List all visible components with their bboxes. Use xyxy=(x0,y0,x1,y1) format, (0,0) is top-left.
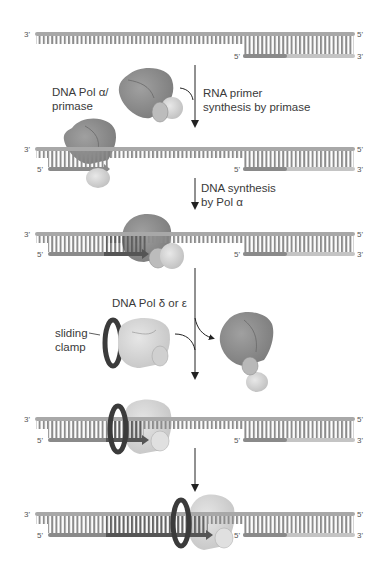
end-label-3prime: 3' xyxy=(24,30,30,39)
end-label-3prime: 3' xyxy=(357,250,363,259)
end-label-5prime: 5' xyxy=(234,436,240,445)
step-1-label: RNA primer xyxy=(203,87,263,99)
template-strand xyxy=(35,32,355,36)
previous-rna-primer xyxy=(243,54,287,58)
label-sliding-clamp: clamp xyxy=(55,341,86,353)
end-label-3prime: 3' xyxy=(24,230,30,239)
label-pol-delta: DNA Pol δ or ε xyxy=(112,297,187,309)
step-2-label: by Pol α xyxy=(201,196,243,208)
panel-2-dna: 3' 5' 5' 5' 3' xyxy=(24,118,363,188)
end-label-5prime: 5' xyxy=(234,165,240,174)
pol-delta-free xyxy=(118,318,170,368)
end-label-3prime: 3' xyxy=(357,436,363,445)
end-label-5prime: 5' xyxy=(234,531,240,540)
end-label-3prime: 3' xyxy=(357,52,363,61)
end-label-5prime: 5' xyxy=(357,30,363,39)
end-label-5prime: 5' xyxy=(37,531,43,540)
base-pairs-right xyxy=(244,44,354,54)
end-label-3prime: 3' xyxy=(24,415,30,424)
pol-alpha-released xyxy=(220,312,273,392)
end-label-5prime: 5' xyxy=(37,436,43,445)
base-pairs xyxy=(36,36,354,44)
end-label-5prime: 5' xyxy=(357,415,363,424)
panel-4-dna: 3' 5' 5' 5' 3' xyxy=(24,400,363,454)
end-label-5prime: 5' xyxy=(234,250,240,259)
replication-diagram: 3' 5' 5' 3' DNA Pol α/ primase RNA prime… xyxy=(0,0,385,575)
end-label-5prime: 5' xyxy=(357,510,363,519)
binding-arrow xyxy=(180,88,193,100)
label-pol-alpha: DNA Pol α/ xyxy=(52,86,109,98)
end-label-5prime: 5' xyxy=(357,145,363,154)
end-label-5prime: 5' xyxy=(357,230,363,239)
label-primase: primase xyxy=(52,100,93,112)
label-sliding-clamp: sliding xyxy=(55,327,88,339)
end-label-3prime: 3' xyxy=(24,510,30,519)
release-arrow xyxy=(195,318,212,338)
end-label-3prime: 3' xyxy=(357,531,363,540)
new-dna-segment xyxy=(104,252,144,256)
leader-line xyxy=(89,333,100,335)
primase-subunit xyxy=(86,168,110,188)
end-label-5prime: 5' xyxy=(234,52,240,61)
end-label-3prime: 3' xyxy=(357,165,363,174)
primase-subunit xyxy=(160,243,184,269)
end-label-3prime: 3' xyxy=(24,145,30,154)
step-1-label: synthesis by primase xyxy=(203,101,310,113)
step-2-label: DNA synthesis xyxy=(201,182,276,194)
panel-5-dna: 3' 5' 5' 5' 3' xyxy=(24,494,363,550)
end-label-5prime: 5' xyxy=(37,165,43,174)
end-label-5prime: 5' xyxy=(37,250,43,259)
panel-1-dna: 3' 5' 5' 3' xyxy=(24,30,363,61)
pol-alpha-primase-free xyxy=(119,68,183,122)
binding-arrow xyxy=(175,334,195,350)
panel-3-dna: 3' 5' 5' 5' 3' xyxy=(24,214,363,269)
